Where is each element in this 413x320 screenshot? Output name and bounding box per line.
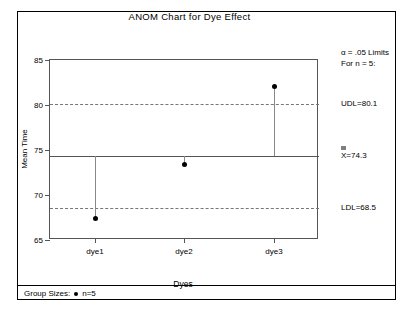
x-double-bar-symbol: X	[341, 151, 346, 160]
y-tick-70	[45, 195, 50, 196]
x-tick-label-dye3: dye3	[265, 247, 282, 256]
group-sizes-label: Group Sizes:	[24, 289, 70, 298]
alpha-limits-line2: For n = 5:	[341, 59, 375, 68]
y-tick-80	[45, 105, 50, 106]
data-point-dye1[interactable]	[93, 216, 98, 221]
chart-title: ANOM Chart for Dye Effect	[0, 11, 379, 22]
x-tick-dye3	[274, 238, 275, 243]
y-tick-65	[45, 240, 50, 241]
data-point-dye2[interactable]	[182, 162, 187, 167]
center-line-value: =74.3	[346, 151, 366, 160]
anom-chart-screenshot: ANOM Chart for Dye Effect α = .05 Limits…	[0, 0, 413, 320]
x-tick-dye1	[95, 238, 96, 243]
udl-line	[50, 104, 319, 105]
y-tick-label-85: 85	[34, 56, 43, 65]
y-tick-85	[45, 60, 50, 61]
stem-dye1	[95, 156, 96, 218]
y-tick-75	[45, 150, 50, 151]
footer-divider	[17, 285, 396, 286]
ldl-label: LDL=68.5	[341, 203, 376, 212]
alpha-limits-line1: α = .05 Limits	[341, 48, 389, 57]
y-tick-label-65: 65	[34, 236, 43, 245]
y-axis-title: Mean Time	[20, 129, 29, 169]
legend-dot-icon	[74, 292, 78, 296]
data-point-dye3[interactable]	[272, 84, 277, 89]
center-line-label: X=74.3	[341, 151, 367, 160]
ldl-line	[50, 208, 319, 209]
udl-label: UDL=80.1	[341, 99, 377, 108]
y-tick-label-70: 70	[34, 191, 43, 200]
plot-area: 85 80 75 70 65 dye1 dye2 dye3	[49, 59, 318, 239]
stem-dye3	[274, 86, 275, 156]
y-tick-label-75: 75	[34, 146, 43, 155]
x-tick-label-dye1: dye1	[86, 247, 103, 256]
x-tick-label-dye2: dye2	[175, 247, 192, 256]
group-sizes-value: n=5	[82, 289, 96, 298]
x-tick-dye2	[184, 238, 185, 243]
group-sizes-legend: Group Sizes: n=5	[24, 289, 96, 298]
x-axis-title: Dyes	[173, 279, 192, 289]
y-tick-label-80: 80	[34, 101, 43, 110]
